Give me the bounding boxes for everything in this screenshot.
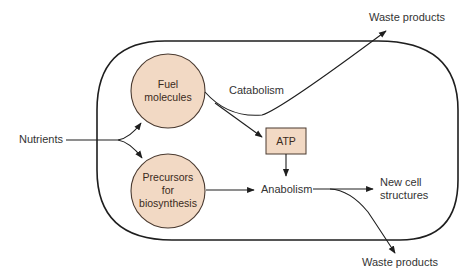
nutrients-label: Nutrients — [19, 133, 63, 146]
fuel-to-atp-arrow — [215, 103, 262, 137]
waste-products-bottom-label: Waste products — [362, 256, 438, 269]
nutrients-to-precursors-arrow — [118, 140, 142, 158]
fuel-line2: molecules — [131, 91, 205, 104]
new-cell-line1: New cell — [380, 176, 450, 189]
precursors-line2: for — [131, 184, 205, 197]
fuel-molecules-text: Fuel molecules — [131, 78, 205, 104]
new-cell-structures-label: New cell structures — [380, 176, 450, 202]
catabolism-label: Catabolism — [229, 84, 284, 97]
nutrients-to-fuel-arrow — [118, 123, 141, 140]
anabolism-label: Anabolism — [261, 183, 312, 196]
diagram-canvas — [0, 0, 473, 278]
catabolism-to-waste-arrow — [205, 31, 386, 115]
precursors-line3: biosynthesis — [131, 197, 205, 210]
waste-products-top-label: Waste products — [369, 11, 445, 24]
atp-text: ATP — [266, 135, 306, 148]
precursors-text: Precursors for biosynthesis — [131, 171, 205, 210]
precursors-line1: Precursors — [131, 171, 205, 184]
fuel-line1: Fuel — [131, 78, 205, 91]
new-cell-line2: structures — [380, 189, 450, 202]
